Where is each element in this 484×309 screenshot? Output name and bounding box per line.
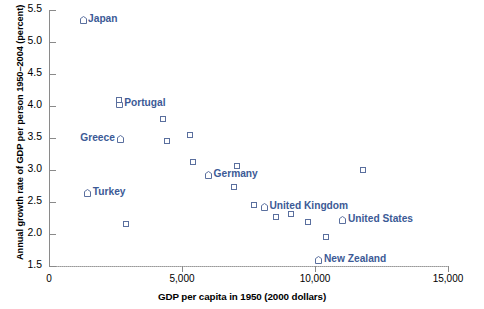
x-tick-label: 0	[14, 273, 84, 284]
data-point	[123, 221, 129, 227]
y-tick-label: 2.5	[8, 195, 42, 206]
y-tick-label: 5.0	[8, 35, 42, 46]
y-tick-label: 4.5	[8, 67, 42, 78]
data-point	[323, 234, 329, 240]
data-point-label: Portugal	[124, 97, 165, 108]
y-tick-label: 2.0	[8, 227, 42, 238]
y-tick-label: 5.5	[8, 3, 42, 14]
x-tick-label: 10,000	[280, 273, 350, 284]
data-point-marker	[315, 256, 322, 264]
x-tick-mark	[182, 266, 183, 272]
y-tick-mark	[49, 234, 56, 235]
y-tick-mark	[49, 42, 56, 43]
y-tick-label: 1.5	[8, 259, 42, 270]
data-point	[360, 167, 366, 173]
y-tick-mark	[49, 106, 56, 107]
data-point-label: Japan	[88, 13, 117, 24]
data-point	[288, 211, 294, 217]
data-point-marker	[80, 16, 87, 24]
y-tick-label: 4.0	[8, 99, 42, 110]
data-point-marker	[205, 171, 212, 179]
y-tick-mark	[49, 266, 56, 267]
data-point	[251, 202, 257, 208]
data-point	[116, 97, 122, 103]
data-point	[273, 214, 279, 220]
data-point-label: Greece	[0, 132, 115, 143]
data-point-label: United Kingdom	[269, 200, 348, 211]
data-point-marker	[84, 189, 91, 197]
y-tick-mark	[49, 10, 56, 11]
data-point-marker	[339, 216, 346, 224]
x-tick-label: 5,000	[147, 273, 217, 284]
y-tick-mark	[49, 74, 56, 75]
data-point	[234, 163, 240, 169]
baseline-gridline	[49, 266, 448, 267]
data-point-label: United States	[348, 213, 413, 224]
data-point	[305, 219, 311, 225]
data-point	[187, 132, 193, 138]
x-axis-title: GDP per capita in 1950 (2000 dollars)	[0, 291, 484, 302]
data-point	[160, 116, 166, 122]
x-tick-mark	[448, 266, 449, 272]
scatter-chart: Annual growth rate of GDP per person 195…	[0, 0, 484, 309]
data-point-label: Germany	[214, 168, 258, 179]
data-point-label: New Zealand	[324, 253, 386, 264]
data-point-marker	[261, 203, 268, 211]
x-tick-mark	[315, 266, 316, 272]
y-tick-label: 3.0	[8, 163, 42, 174]
y-tick-mark	[49, 202, 56, 203]
data-point	[190, 159, 196, 165]
x-tick-label: 15,000	[413, 273, 483, 284]
data-point	[164, 138, 170, 144]
y-tick-mark	[49, 170, 56, 171]
data-point-marker	[117, 135, 124, 143]
data-point-label: Turkey	[93, 186, 126, 197]
data-point	[231, 184, 237, 190]
